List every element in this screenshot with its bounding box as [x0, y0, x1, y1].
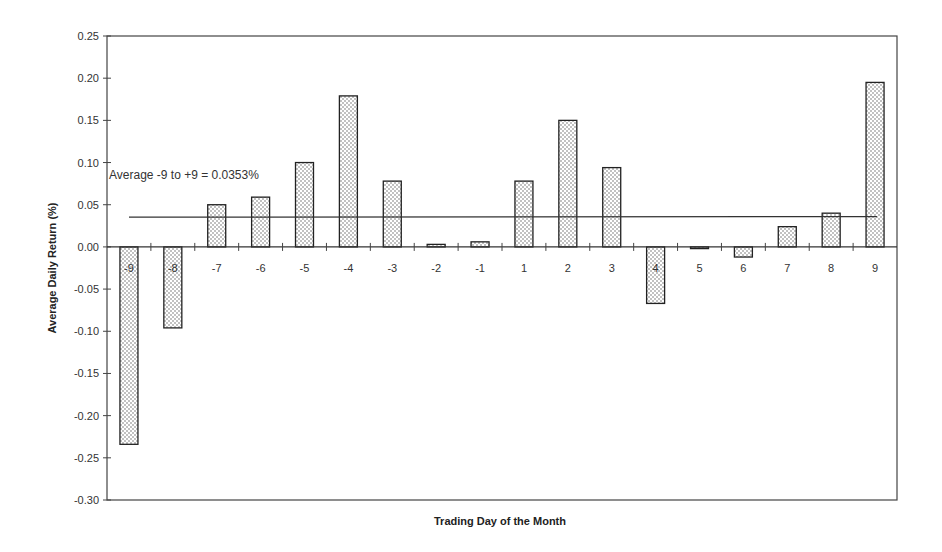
x-tick-label: 1: [521, 262, 527, 274]
plot-frame: [107, 36, 897, 500]
bar-day--1: [471, 242, 489, 247]
bar-day--3: [383, 181, 401, 247]
y-tick-label: 0.10: [78, 157, 99, 169]
bars: [120, 82, 884, 444]
x-axis-title: Trading Day of the Month: [434, 515, 566, 527]
y-axis-title: Average Daily Return (%): [46, 202, 58, 333]
y-tick-label: 0.20: [78, 72, 99, 84]
x-tick-label: 2: [565, 262, 571, 274]
bar-day--4: [339, 96, 357, 247]
x-tick-label: -2: [431, 262, 441, 274]
x-tick-label: -6: [256, 262, 266, 274]
bar-day-2: [559, 120, 577, 247]
average-reference-line: [129, 217, 877, 218]
bar-chart: 0.250.200.150.100.050.00-0.05-0.10-0.15-…: [0, 0, 942, 552]
x-tick-label: 5: [696, 262, 702, 274]
x-tick-label: -9: [124, 262, 134, 274]
bar-day--5: [296, 163, 314, 247]
y-tick-label: -0.10: [74, 325, 99, 337]
bar-day-7: [778, 227, 796, 247]
bar-day-4: [647, 247, 665, 304]
y-tick-label: -0.05: [74, 283, 99, 295]
bar-day--9: [120, 247, 138, 444]
y-tick-label: -0.20: [74, 410, 99, 422]
x-tick-label: -4: [343, 262, 353, 274]
bar-day-8: [822, 213, 840, 247]
x-tick-label: -5: [300, 262, 310, 274]
x-tick-label: 4: [653, 262, 659, 274]
y-tick-label: -0.25: [74, 452, 99, 464]
y-tick-label: -0.30: [74, 494, 99, 506]
x-tick-label: -8: [168, 262, 178, 274]
y-tick-label: -0.15: [74, 367, 99, 379]
x-tick-label: -1: [475, 262, 485, 274]
x-tick-label: 3: [609, 262, 615, 274]
average-annotation: Average -9 to +9 = 0.0353%: [109, 168, 259, 182]
bar-day-6: [734, 247, 752, 257]
y-tick-label: 0.05: [78, 199, 99, 211]
y-tick-label: 0.25: [78, 30, 99, 42]
y-tick-label: 0.15: [78, 114, 99, 126]
bar-day--7: [208, 205, 226, 247]
x-tick-label: -7: [212, 262, 222, 274]
bar-day-1: [515, 181, 533, 247]
bar-day--8: [164, 247, 182, 328]
x-tick-label: 8: [828, 262, 834, 274]
x-tick-label: 9: [872, 262, 878, 274]
bar-day--6: [252, 197, 270, 247]
bar-day-3: [603, 168, 621, 247]
y-axis: 0.250.200.150.100.050.00-0.05-0.10-0.15-…: [74, 30, 111, 506]
x-tick-label: 7: [784, 262, 790, 274]
x-tick-label: 6: [740, 262, 746, 274]
x-tick-label: -3: [387, 262, 397, 274]
bar-day-9: [866, 82, 884, 247]
y-tick-label: 0.00: [78, 241, 99, 253]
